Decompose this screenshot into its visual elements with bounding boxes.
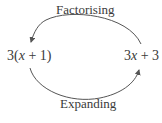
factored-expression: 3(x + 1) (7, 49, 51, 63)
expr-prefix: 3 (124, 48, 131, 63)
expr-suffix: + 1) (25, 48, 52, 63)
expanding-arrow (30, 68, 139, 99)
factorising-label: Factorising (56, 3, 115, 16)
expanded-expression: 3x + 3 (124, 49, 159, 63)
factorising-arrow (31, 14, 141, 44)
expanding-label: Expanding (60, 97, 116, 110)
expr-prefix: 3( (7, 48, 19, 63)
expr-suffix: + 3 (137, 48, 159, 63)
